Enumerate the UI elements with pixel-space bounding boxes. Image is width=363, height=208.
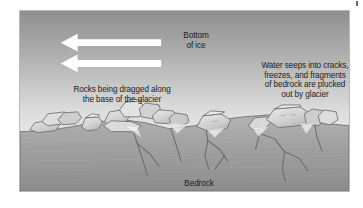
figure-root: Bottom of ice Rocks being dragged along … <box>0 0 363 208</box>
label-bedrock: Bedrock <box>163 179 235 189</box>
diagram-frame: Bottom of ice Rocks being dragged along … <box>19 10 350 192</box>
label-bottom-of-ice: Bottom of ice <box>166 31 226 50</box>
label-water-seeps: Water seeps into cracks, freezes, and fr… <box>230 61 350 99</box>
label-rocks-dragged: Rocks being dragged along the base of th… <box>46 85 198 104</box>
corner-tick-mark <box>356 1 358 6</box>
